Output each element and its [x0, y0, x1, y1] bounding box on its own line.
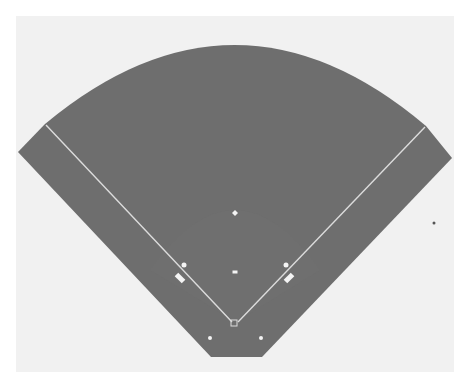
- pitcher-rubber: [233, 271, 238, 274]
- first-base: [284, 263, 289, 268]
- baseball-field-diagram: [0, 0, 471, 387]
- left-on-deck-circle: [208, 336, 212, 340]
- stray-dot: [433, 222, 436, 225]
- right-on-deck-circle: [259, 336, 263, 340]
- third-base: [182, 263, 187, 268]
